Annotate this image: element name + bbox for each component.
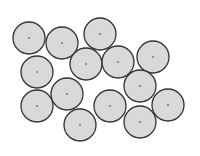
circle-6	[102, 46, 134, 78]
center-dot	[36, 71, 38, 73]
circle-8	[124, 70, 156, 102]
center-dot	[152, 56, 154, 58]
center-dot	[36, 105, 38, 107]
circle-14	[124, 106, 156, 138]
circle-1	[13, 22, 45, 54]
center-dot	[85, 63, 87, 65]
center-dot	[139, 121, 141, 123]
circle-packing-diagram	[0, 0, 200, 156]
circle-9	[21, 90, 53, 122]
circle-5	[70, 48, 102, 80]
circle-3	[84, 18, 116, 50]
center-dot	[66, 93, 68, 95]
center-dot	[28, 37, 30, 39]
center-dot	[109, 105, 111, 107]
circle-12	[152, 89, 184, 121]
circle-4	[21, 56, 53, 88]
center-dot	[99, 33, 101, 35]
diagram-svg	[0, 0, 200, 156]
center-dot	[79, 124, 81, 126]
center-dot	[117, 61, 119, 63]
circle-10	[51, 78, 83, 110]
center-dot	[139, 85, 141, 87]
center-dot	[61, 42, 63, 44]
circle-11	[94, 90, 126, 122]
center-dot	[167, 104, 169, 106]
circle-13	[64, 109, 96, 141]
circle-7	[137, 41, 169, 73]
